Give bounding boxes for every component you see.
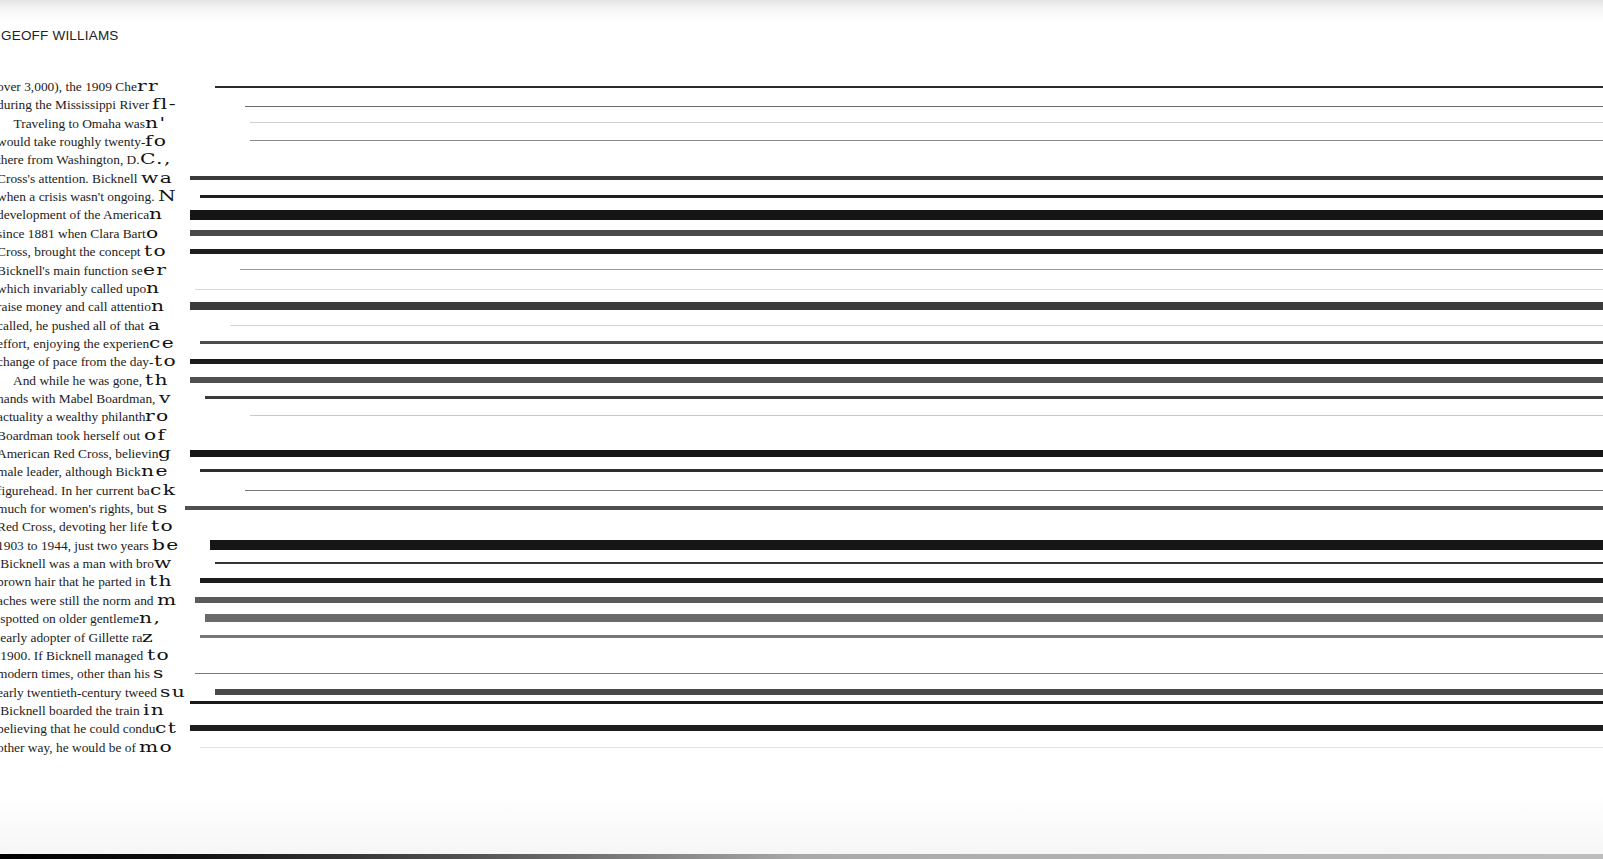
text-line: 1903 to 1944, just two years be: [0, 536, 1603, 554]
line-text: aches were still the norm and m: [0, 591, 172, 610]
scan-streak: [200, 747, 1603, 748]
line-stretched-tail: z: [142, 628, 154, 646]
text-line: other way, he would be of mo: [0, 738, 1603, 756]
line-stretched-tail: fo: [145, 132, 167, 150]
line-stretched-tail: s: [153, 664, 165, 682]
line-text: Red Cross, devoting her life to: [0, 517, 168, 536]
line-text: other way, he would be of mo: [0, 738, 165, 757]
line-stretched-tail: N: [158, 187, 177, 205]
line-main-text: actuality a wealthy philanth: [0, 409, 145, 424]
line-main-text: called, he pushed all of that: [0, 318, 148, 333]
scan-streak: [205, 614, 1603, 622]
text-line: much for women's rights, but s: [0, 499, 1603, 517]
line-stretched-tail: ro: [145, 407, 170, 425]
scan-streak: [190, 725, 1603, 731]
scan-streak: [200, 195, 1603, 198]
scan-streak: [200, 341, 1603, 344]
line-text: Bicknell was a man with brow: [0, 554, 168, 573]
line-main-text: when a crisis wasn't ongoing.: [0, 189, 158, 204]
text-line: Boardman took herself out of: [0, 426, 1603, 444]
line-text: when a crisis wasn't ongoing. N: [0, 187, 172, 206]
scan-streak: [195, 289, 1603, 290]
line-stretched-tail: su: [160, 683, 186, 701]
scan-streak: [245, 490, 1603, 491]
line-text: which invariably called upon: [0, 279, 157, 298]
text-line: And while he was gone, th: [0, 371, 1603, 389]
line-main-text: figurehead. In her current ba: [0, 483, 150, 498]
line-stretched-tail: ck: [150, 481, 176, 499]
page-bottom-edge: [0, 854, 1603, 859]
text-line: actuality a wealthy philanthro: [0, 407, 1603, 425]
line-stretched-tail: n,: [139, 609, 161, 627]
line-text: 1900. If Bicknell managed to: [0, 646, 164, 665]
line-text: hands with Mabel Boardman, v: [0, 389, 168, 408]
line-main-text: 1900. If Bicknell managed: [0, 648, 147, 663]
line-main-text: raise money and call attentio: [0, 299, 151, 314]
line-main-text: over 3,000), the 1909 Che: [0, 79, 137, 94]
scan-streak: [190, 210, 1603, 220]
scan-streak: [215, 689, 1603, 695]
line-stretched-tail: fl-: [152, 95, 177, 113]
line-main-text: change of pace from the day-: [0, 354, 154, 369]
line-main-text: early adopter of Gillette ra: [0, 630, 142, 645]
scan-streak: [190, 701, 1603, 704]
line-stretched-tail: be: [152, 536, 180, 554]
line-text: over 3,000), the 1909 Cherr: [0, 77, 153, 96]
line-stretched-tail: g: [158, 444, 172, 462]
text-line: brown hair that he parted in th: [0, 572, 1603, 590]
line-text: much for women's rights, but s: [0, 499, 166, 518]
scan-streak: [190, 230, 1603, 236]
text-line: Cross's attention. Bicknell wa: [0, 169, 1603, 187]
line-stretched-tail: v: [159, 389, 172, 407]
line-main-text: Cross, brought the concept: [0, 244, 144, 259]
line-stretched-tail: to: [147, 646, 170, 664]
line-main-text: brown hair that he parted in: [0, 574, 149, 589]
running-head-author: GEOFF WILLIAMS: [1, 28, 119, 43]
text-line: which invariably called upon: [0, 279, 1603, 297]
line-text: 1903 to 1944, just two years be: [0, 536, 173, 555]
text-line: Bicknell's main function seer: [0, 261, 1603, 279]
line-text: Cross, brought the concept to: [0, 242, 161, 261]
text-line: Traveling to Omaha wasn': [0, 114, 1603, 132]
line-stretched-tail: ce: [149, 334, 175, 352]
line-text: effort, enjoying the experience: [0, 334, 168, 353]
line-stretched-tail: n: [151, 297, 165, 315]
line-text: development of the American: [0, 205, 160, 224]
scan-streak: [190, 359, 1603, 364]
line-text: Boardman took herself out of: [0, 426, 160, 445]
scan-streak: [250, 415, 1603, 416]
line-text: would take roughly twenty-fo: [0, 132, 162, 151]
scan-streak: [215, 562, 1603, 564]
line-main-text: modern times, other than his: [0, 666, 153, 681]
line-text: raise money and call attention: [0, 297, 162, 316]
scan-streak: [250, 140, 1603, 141]
line-text: change of pace from the day-to: [0, 352, 171, 371]
line-main-text: other way, he would be of: [0, 740, 139, 755]
scan-streak: [205, 396, 1603, 399]
text-line: effort, enjoying the experience: [0, 334, 1603, 352]
text-line: would take roughly twenty-fo: [0, 132, 1603, 150]
line-stretched-tail: to: [144, 242, 167, 260]
line-stretched-tail: w: [154, 554, 173, 572]
line-main-text: aches were still the norm and: [0, 593, 157, 608]
line-stretched-tail: n: [146, 279, 160, 297]
line-stretched-tail: o: [146, 224, 160, 242]
text-line: early twentieth-century tweed su: [0, 683, 1603, 701]
text-line: called, he pushed all of that a: [0, 316, 1603, 334]
scan-streak: [185, 506, 1603, 510]
text-line: 1900. If Bicknell managed to: [0, 646, 1603, 664]
line-main-text: Bicknell was a man with bro: [0, 556, 154, 571]
scan-streak: [190, 176, 1603, 180]
scan-streak: [195, 597, 1603, 603]
line-main-text: development of the America: [0, 207, 149, 222]
line-main-text: which invariably called upo: [0, 281, 146, 296]
line-stretched-tail: er: [143, 261, 167, 279]
line-main-text: And while he was gone,: [0, 373, 145, 388]
line-main-text: Bicknell's main function se: [0, 263, 143, 278]
text-line: since 1881 when Clara Barto: [0, 224, 1603, 242]
scan-streak: [250, 122, 1603, 123]
line-text: spotted on older gentlemen,: [0, 609, 156, 628]
line-text: believing that he could conduct: [0, 719, 172, 738]
line-text: Bicknell's main function seer: [0, 261, 161, 280]
line-text: figurehead. In her current back: [0, 481, 169, 500]
